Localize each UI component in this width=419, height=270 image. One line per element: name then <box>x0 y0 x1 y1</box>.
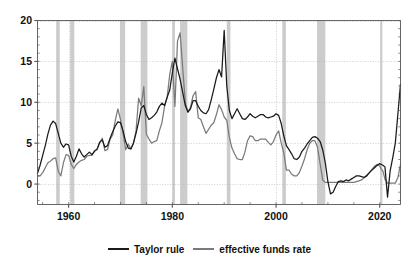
legend-swatch <box>193 248 214 250</box>
chart-legend: Taylor ruleeffective funds rate <box>0 240 419 258</box>
xtick-label: 1980 <box>161 210 185 222</box>
chart-screenshot: 051015201960198020002020 Taylor ruleeffe… <box>0 0 419 270</box>
xtick-label: 2020 <box>368 210 392 222</box>
recession-band <box>120 21 125 205</box>
recession-band <box>70 21 74 205</box>
recession-band <box>317 21 325 205</box>
taylor-rule-line-chart: 051015201960198020002020 Taylor ruleeffe… <box>0 0 419 270</box>
ytick-label: 20 <box>20 14 32 26</box>
plot-canvas: 051015201960198020002020 <box>0 0 419 270</box>
legend-swatch <box>108 248 129 250</box>
plot-background <box>38 21 401 205</box>
legend-label: Taylor rule <box>134 244 184 255</box>
recession-band <box>56 21 60 205</box>
recession-band <box>282 21 286 205</box>
ytick-label: 5 <box>26 137 32 149</box>
legend-entry-effective-funds-rate: effective funds rate <box>193 244 311 255</box>
ytick-label: 10 <box>20 96 32 108</box>
xtick-label: 2000 <box>264 210 288 222</box>
ytick-label: 0 <box>26 178 32 190</box>
legend-label: effective funds rate <box>219 244 311 255</box>
legend-entry-taylor-rule: Taylor rule <box>108 244 184 255</box>
ytick-label: 15 <box>20 55 32 67</box>
xtick-label: 1960 <box>57 210 81 222</box>
